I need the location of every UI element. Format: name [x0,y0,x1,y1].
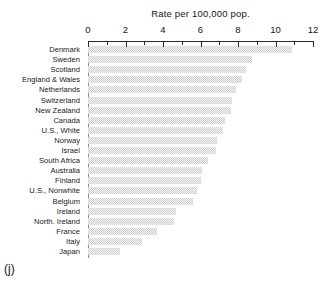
chart-title: Rate per 100,000 pop. [88,8,313,19]
category-label: Ireland [57,207,80,216]
bar-row [88,127,313,137]
bar [88,56,252,63]
bar [88,167,202,174]
x-tick-label: 10 [270,24,281,35]
bar [88,107,231,114]
bar [88,66,246,73]
bar-row [88,157,313,167]
category-labels-container: DenmarkSwedenScotlandEngland & WalesNeth… [0,46,84,258]
bar [88,157,208,164]
x-tick-minor [107,42,108,45]
bar [88,127,223,134]
category-label: U.S., White [42,126,80,135]
bar [88,208,176,215]
bar-row [88,66,313,76]
category-label: Norway [54,136,80,145]
bar-row [88,137,313,147]
bar [88,147,216,154]
category-label: France [56,227,80,236]
bar-row [88,228,313,238]
x-tick-major [163,42,164,47]
x-tick-label: 12 [308,24,319,35]
category-label: Scotland [50,65,80,74]
x-tick-minor [294,42,295,45]
category-label: New Zealand [35,106,80,115]
category-label: Italy [66,237,80,246]
bar-row [88,46,313,56]
category-label: North. Ireland [34,217,80,226]
bar-row [88,208,313,218]
bar [88,137,217,144]
bar [88,97,232,104]
x-tick-major [238,42,239,47]
bar [88,248,120,255]
bar [88,177,201,184]
bar [88,198,193,205]
bar-row [88,238,313,248]
category-label: Belgium [53,197,80,206]
category-label: South Africa [39,156,80,165]
x-tick-label: 0 [85,24,90,35]
chart-figure: Rate per 100,000 pop. 024681012 DenmarkS… [0,0,333,288]
x-tick-minor [182,42,183,45]
category-label: Australia [50,166,80,175]
x-axis-tick-labels: 024681012 [88,24,313,42]
x-tick-minor [144,42,145,45]
category-label: Japan [59,247,80,256]
category-label: Switzerland [41,96,80,105]
category-label: Sweden [53,55,80,64]
bar-row [88,117,313,127]
panel-tag: (j) [4,262,15,276]
x-tick-label: 8 [235,24,240,35]
category-label: England & Wales [22,75,80,84]
bar-row [88,248,313,258]
bar-row [88,177,313,187]
bar [88,187,197,194]
bar [88,238,142,245]
x-tick-major [313,42,314,47]
bar-row [88,86,313,96]
bar [88,76,242,83]
x-tick-minor [257,42,258,45]
category-label: Canada [53,116,80,125]
bar [88,228,157,235]
bar [88,86,236,93]
x-tick-major [201,42,202,47]
x-tick-label: 2 [123,24,128,35]
bar-row [88,167,313,177]
bar-row [88,147,313,157]
bar-row [88,56,313,66]
category-label: Finland [55,176,80,185]
category-label: Netherlands [39,85,80,94]
bar-row [88,107,313,117]
x-tick-minor [219,42,220,45]
x-tick-label: 4 [160,24,165,35]
x-tick-major [126,42,127,47]
bar [88,218,174,225]
x-tick-major [88,42,89,47]
bar-row [88,187,313,197]
bar-row [88,97,313,107]
x-tick-major [276,42,277,47]
bar-row [88,198,313,208]
category-label: U.S., Nonwhite [29,186,80,195]
bar [88,46,292,53]
category-label: Israel [61,146,80,155]
bar-row [88,76,313,86]
bar [88,117,225,124]
category-label: Denmark [49,45,80,54]
x-tick-label: 6 [198,24,203,35]
bars-container [88,46,313,258]
bar-row [88,218,313,228]
